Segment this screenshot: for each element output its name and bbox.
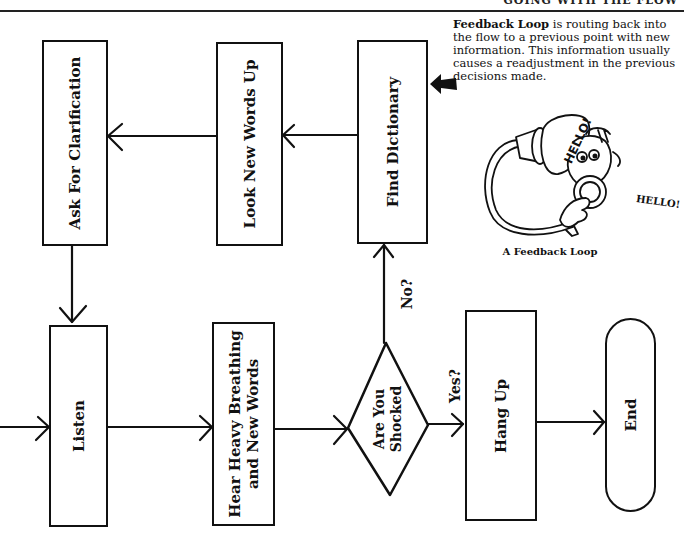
node-label: Look New Words Up — [241, 60, 259, 229]
decision-label-line1: Are You — [371, 386, 388, 453]
edge-find-to-look — [283, 125, 357, 147]
feedback-loop-definition: Feedback Loop is routing back into the f… — [453, 18, 681, 83]
node-label-line1: Hear Heavy Breathing — [226, 330, 244, 517]
edge-ask-to-listen — [60, 246, 86, 322]
definition-term: Feedback Loop — [453, 17, 549, 31]
decision-are-you-shocked: Are You Shocked — [348, 343, 428, 495]
node-ask-for-clarification: Ask For Clarification — [42, 40, 108, 246]
decision-label-line2: Shocked — [388, 386, 405, 453]
node-label: Hang Up — [492, 378, 510, 452]
edge-label-no: No? — [399, 279, 415, 309]
node-hang-up: Hang Up — [465, 310, 537, 521]
edge-look-to-ask — [108, 124, 216, 150]
node-label: End — [622, 399, 640, 432]
edge-label-yes: Yes? — [447, 369, 463, 403]
illustration-caption: A Feedback Loop — [490, 246, 610, 257]
telephone-cartoon-illustration: HELLO! — [478, 112, 628, 242]
edge-shocked-to-hangup — [428, 414, 463, 436]
edge-listen-to-hear — [108, 416, 212, 440]
decision-label: Are You Shocked — [371, 386, 405, 453]
node-label: Ask For Clarification — [66, 57, 84, 230]
node-label: Find Dictionary — [384, 77, 402, 208]
node-label-line2: and New Words — [244, 330, 262, 517]
node-hear-heavy-breathing: Hear Heavy Breathing and New Words — [212, 322, 275, 526]
node-listen: Listen — [49, 325, 108, 527]
edge-hangup-to-end — [537, 411, 604, 434]
edge-shocked-to-find — [374, 245, 393, 343]
node-look-new-words-up: Look New Words Up — [216, 42, 283, 246]
node-end-terminal: End — [605, 318, 656, 512]
node-find-dictionary: Find Dictionary — [357, 40, 428, 244]
node-label: Listen — [70, 400, 88, 452]
node-label: Hear Heavy Breathing and New Words — [226, 330, 262, 517]
edge-entry-to-listen — [0, 417, 49, 440]
edge-hear-to-shocked — [275, 416, 347, 444]
